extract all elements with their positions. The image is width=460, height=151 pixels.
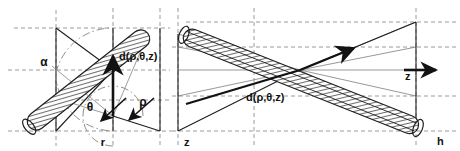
label-z-right: z (405, 70, 411, 82)
label-d-left: d(ρ,θ,z) (119, 50, 158, 62)
label-theta: θ (87, 100, 94, 114)
coordinate-geometry-diagram: α θ ρ r d(ρ,θ,z) (0, 0, 460, 151)
figure-background (0, 0, 460, 151)
figure-root: α θ ρ r d(ρ,θ,z) (0, 0, 460, 151)
label-h: h (437, 135, 444, 147)
label-alpha: α (40, 55, 48, 69)
label-rho: ρ (139, 95, 146, 109)
label-r: r (101, 136, 106, 148)
label-d-right: d(ρ,θ,z) (246, 91, 285, 103)
label-z-left: z (184, 136, 190, 148)
